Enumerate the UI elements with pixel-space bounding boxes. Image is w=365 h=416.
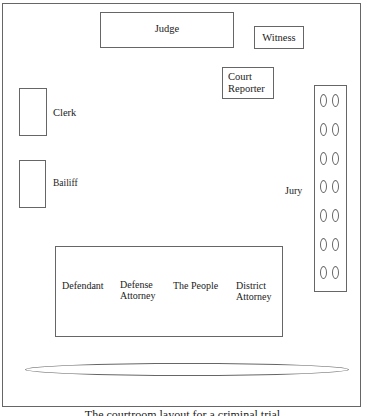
jury-seat [320,209,327,222]
diagram-caption: The courtroom layout for a criminal tria… [0,409,365,416]
district-attorney-label-2: Attorney [236,291,272,303]
jury-seat [332,94,339,107]
jury-seat [320,152,327,165]
witness-stand: Witness [254,26,304,49]
jury-seat [320,266,327,279]
jury-seat [320,180,327,193]
court-reporter-label-1: Court [228,71,252,83]
jury-seat [332,123,339,136]
bailiff-desk [19,160,46,208]
bar-rail [25,363,349,376]
defense-attorney-label-2: Attorney [120,290,156,302]
jury-seat [332,266,339,279]
judge-label: Judge [155,23,180,34]
jury-seat [320,94,327,107]
jury-seat [332,209,339,222]
counsel-table: Defendant Defense Attorney The People Di… [55,246,283,337]
bailiff-label: Bailiff [53,177,78,189]
jury-box [314,85,347,292]
judge-bench: Judge [100,12,234,48]
defendant-label: Defendant [62,280,104,292]
clerk-label: Clerk [53,107,76,119]
jury-seat [332,152,339,165]
the-people-label: The People [173,280,218,292]
court-reporter-label-2: Reporter [228,83,265,95]
jury-seat [332,180,339,193]
jury-seat [320,123,327,136]
jury-seat [320,238,327,251]
clerk-desk [19,88,47,136]
jury-seat [332,238,339,251]
jury-label: Jury [285,185,302,197]
courtroom-outline [2,3,361,407]
court-reporter-desk: Court Reporter [222,67,274,99]
witness-label: Witness [262,32,295,43]
